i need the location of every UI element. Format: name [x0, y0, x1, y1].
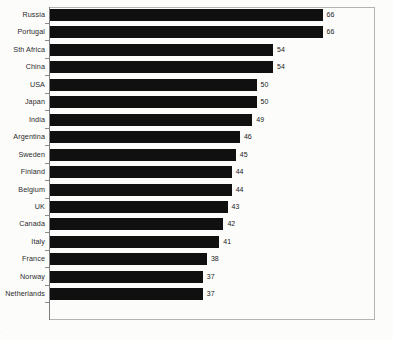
- axis-tick: [45, 75, 49, 76]
- bar-value-label: 41: [223, 238, 231, 246]
- bar-row: Norway37: [0, 270, 393, 287]
- bar: [50, 253, 207, 265]
- bar-row: Japan50: [0, 95, 393, 112]
- axis-tick: [45, 110, 49, 111]
- bar: [50, 96, 257, 108]
- bar-category-label: UK: [0, 202, 45, 211]
- bar: [50, 201, 228, 213]
- axis-tick: [45, 285, 49, 286]
- bar-value-label: 46: [244, 133, 252, 141]
- bar-row: India49: [0, 113, 393, 130]
- bar-category-label: Russia: [0, 10, 45, 19]
- bar-value-label: 66: [327, 28, 335, 36]
- axis-tick: [45, 215, 49, 216]
- bar-category-label: Sweden: [0, 150, 45, 159]
- bar-category-label: France: [0, 254, 45, 263]
- bar-category-label: Italy: [0, 237, 45, 246]
- axis-tick: [45, 40, 49, 41]
- bar-category-label: Norway: [0, 272, 45, 281]
- bar: [50, 61, 273, 73]
- bar-value-label: 50: [261, 81, 269, 89]
- bar-row: Sth Africa54: [0, 43, 393, 60]
- bar-category-label: Belgium: [0, 185, 45, 194]
- bar-chart: Russia66Portugal66Sth Africa54China54USA…: [0, 0, 393, 340]
- bar-value-label: 43: [232, 203, 240, 211]
- bar-category-label: Canada: [0, 219, 45, 228]
- bar-value-label: 42: [227, 220, 235, 228]
- bar-value-label: 37: [207, 273, 215, 281]
- axis-tick: [45, 163, 49, 164]
- bar-value-label: 50: [261, 98, 269, 106]
- bar-row: Canada42: [0, 217, 393, 234]
- bar: [50, 236, 219, 248]
- axis-tick: [45, 58, 49, 59]
- bar: [50, 131, 240, 143]
- axis-tick: [45, 23, 49, 24]
- bar-row: UK43: [0, 200, 393, 217]
- bar-row: USA50: [0, 78, 393, 95]
- bar: [50, 271, 203, 283]
- bar-value-label: 66: [327, 11, 335, 19]
- bar-row: France38: [0, 252, 393, 269]
- bar-rows: Russia66Portugal66Sth Africa54China54USA…: [0, 0, 393, 340]
- bar-category-label: Argentina: [0, 132, 45, 141]
- bar-row: Finland44: [0, 165, 393, 182]
- bar-value-label: 44: [236, 168, 244, 176]
- bar-row: Portugal66: [0, 25, 393, 42]
- bar-row: Argentina46: [0, 130, 393, 147]
- bar-row: Netherlands37: [0, 287, 393, 304]
- bar: [50, 184, 232, 196]
- axis-tick: [45, 145, 49, 146]
- axis-tick: [45, 128, 49, 129]
- cropped-caption: · · ·: [0, 328, 393, 340]
- bar-row: Belgium44: [0, 183, 393, 200]
- axis-tick: [45, 302, 49, 303]
- bar-category-label: Sth Africa: [0, 45, 45, 54]
- bar-value-label: 37: [207, 290, 215, 298]
- bar: [50, 26, 323, 38]
- bar: [50, 44, 273, 56]
- axis-tick: [45, 232, 49, 233]
- axis-tick: [45, 250, 49, 251]
- bar-value-label: 54: [277, 46, 285, 54]
- bar: [50, 218, 223, 230]
- axis-tick: [45, 93, 49, 94]
- bar-value-label: 54: [277, 63, 285, 71]
- axis-tick: [45, 180, 49, 181]
- bar: [50, 114, 252, 126]
- axis-tick: [45, 198, 49, 199]
- bar-value-label: 44: [236, 186, 244, 194]
- bar-row: Sweden45: [0, 148, 393, 165]
- bar: [50, 9, 323, 21]
- bar-category-label: Japan: [0, 97, 45, 106]
- bar-row: Russia66: [0, 8, 393, 25]
- bar-value-label: 38: [211, 255, 219, 263]
- bar-row: Italy41: [0, 235, 393, 252]
- bar-row: China54: [0, 60, 393, 77]
- bar-category-label: Netherlands: [0, 289, 45, 298]
- bar-category-label: India: [0, 115, 45, 124]
- bar: [50, 149, 236, 161]
- bar-category-label: USA: [0, 80, 45, 89]
- bar: [50, 166, 232, 178]
- bar-category-label: China: [0, 62, 45, 71]
- bar-value-label: 45: [240, 151, 248, 159]
- bar: [50, 288, 203, 300]
- bar-category-label: Portugal: [0, 27, 45, 36]
- bar-category-label: Finland: [0, 167, 45, 176]
- bar-value-label: 49: [256, 116, 264, 124]
- axis-tick: [45, 267, 49, 268]
- bar: [50, 79, 257, 91]
